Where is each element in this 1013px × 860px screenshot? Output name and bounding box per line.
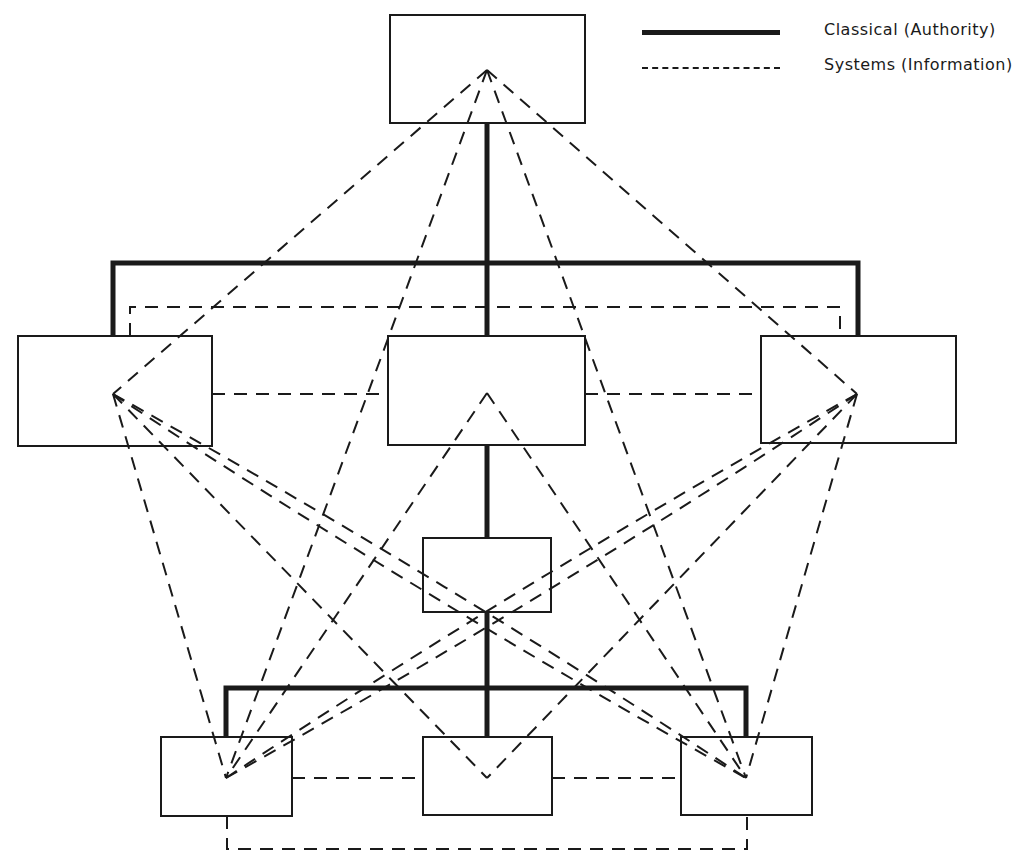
information-line [226,70,487,778]
information-line [113,70,487,394]
org-box-mid-center [388,336,585,445]
legend-label-authority: Classical (Authority) [824,20,996,39]
information-line [113,394,226,778]
information-line [113,394,746,778]
information-line [487,70,857,394]
org-box-bottom-center [423,737,552,815]
org-box-mid-right [761,336,956,443]
authority-lines [113,123,858,737]
information-line [226,393,487,778]
information-line [746,394,857,778]
legend-label-information: Systems (Information) [824,55,1013,74]
legend-item-information: Systems (Information) [640,55,993,83]
information-line [227,815,747,849]
information-line [487,393,746,778]
solid-line-swatch-icon [642,30,780,35]
legend-item-authority: Classical (Authority) [640,20,993,48]
information-line [487,70,746,778]
information-line [113,394,746,778]
org-box-top [390,15,585,123]
dashed-line-swatch-icon [642,67,780,69]
